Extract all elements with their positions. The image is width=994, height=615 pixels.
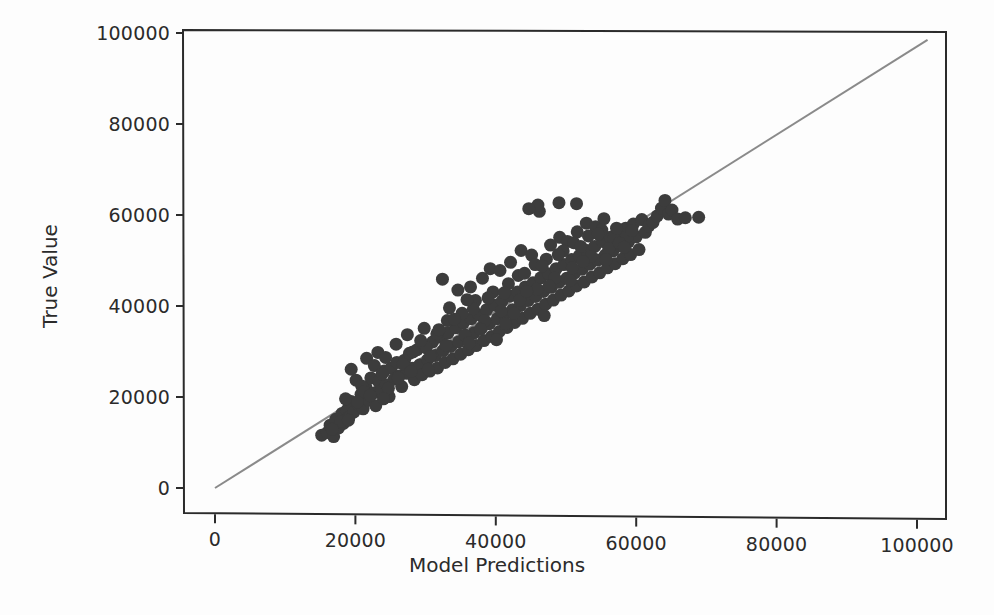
x-tick-label: 80000	[746, 533, 807, 555]
y-tick-label: 0	[0, 477, 170, 499]
scatter-point	[538, 309, 551, 322]
y-tick-label: 60000	[0, 204, 170, 226]
y-tick-label: 100000	[0, 22, 170, 44]
scatter-point	[439, 339, 452, 352]
scatter-point	[326, 423, 339, 436]
scatter-point	[401, 328, 414, 341]
scatter-point	[499, 317, 512, 330]
scatter-point	[610, 222, 623, 235]
scatter-point	[464, 280, 477, 293]
scatter-point	[508, 307, 521, 320]
scatter-point	[625, 224, 638, 237]
scatter-point	[463, 336, 476, 349]
scatter-point	[376, 367, 389, 380]
x-tick-label: 20000	[325, 529, 386, 551]
scatter-point	[543, 279, 556, 292]
scatter-point	[600, 253, 613, 266]
scatter-point	[552, 196, 565, 209]
scatter-point	[377, 392, 390, 405]
scatter-point	[495, 305, 508, 318]
scatter-point	[522, 202, 535, 215]
scatter-point	[633, 243, 646, 256]
y-axis-label: True Value	[38, 166, 62, 386]
scatter-point	[364, 389, 377, 402]
x-axis-label: Model Predictions	[0, 553, 994, 577]
scatter-point	[404, 365, 417, 378]
scatter-point	[406, 345, 419, 358]
scatter-point	[498, 286, 511, 299]
scatter-point	[518, 267, 531, 280]
scatter-point	[574, 240, 587, 253]
scatter-point	[520, 285, 533, 298]
scatter-plot-figure: 020000400006000080000100000 020000400006…	[0, 0, 994, 615]
scatter-point	[461, 293, 474, 306]
scatter-point	[570, 197, 583, 210]
y-tick-label: 20000	[0, 386, 170, 408]
x-tick-label: 40000	[465, 530, 526, 552]
scatter-point	[390, 338, 403, 351]
scatter-points-group	[315, 194, 705, 443]
x-tick-label: 60000	[605, 532, 666, 554]
scatter-point	[339, 392, 352, 405]
scatter-point	[414, 334, 427, 347]
scatter-point	[474, 323, 487, 336]
scatter-point	[564, 274, 577, 287]
scatter-point	[618, 241, 631, 254]
scatter-point	[504, 256, 517, 269]
scatter-point	[424, 350, 437, 363]
y-tick-label: 40000	[0, 295, 170, 317]
scatter-point	[443, 301, 456, 314]
scatter-point	[418, 322, 431, 335]
scatter-point	[448, 313, 461, 326]
scatter-point	[692, 211, 705, 224]
scatter-point	[592, 228, 605, 241]
scatter-point	[597, 212, 610, 225]
scatter-point	[436, 273, 449, 286]
scatter-point	[342, 414, 355, 427]
scatter-point	[451, 284, 464, 297]
scatter-point	[490, 333, 503, 346]
y-tick-label: 80000	[0, 113, 170, 135]
scatter-point	[351, 396, 364, 409]
scatter-point	[576, 255, 589, 268]
scatter-point	[379, 351, 392, 364]
scatter-point	[679, 211, 692, 224]
scatter-point	[494, 264, 507, 277]
scatter-point	[552, 248, 565, 261]
scatter-point	[432, 323, 445, 336]
scatter-point	[422, 363, 435, 376]
scatter-point	[345, 363, 358, 376]
scatter-point	[392, 371, 405, 384]
scatter-point	[482, 291, 495, 304]
scatter-point	[536, 259, 549, 272]
x-tick-label: 0	[209, 528, 221, 550]
